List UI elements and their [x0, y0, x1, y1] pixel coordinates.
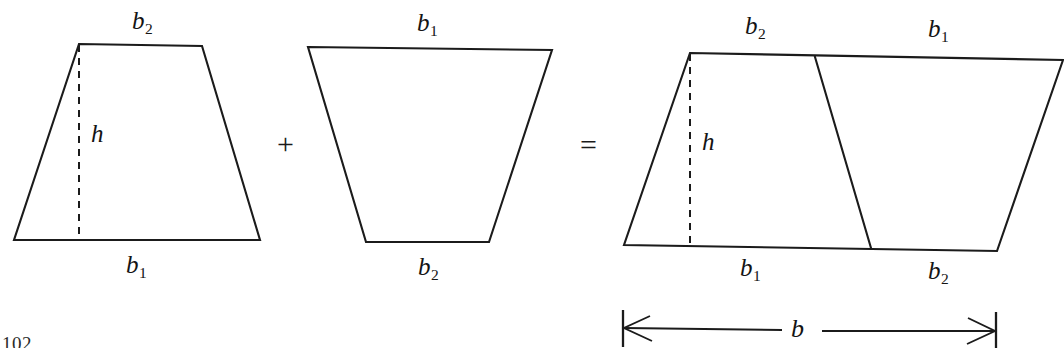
left-trapezoid-bottom-label: b1 [126, 252, 147, 280]
middle-trapezoid-top-label: b1 [417, 10, 438, 38]
parallelogram-top-right-label: b1 [928, 16, 949, 44]
parallelogram-top-left-label: b2 [745, 13, 766, 41]
parallelogram-bottom-left-label: b1 [740, 255, 761, 283]
middle-trapezoid-bottom-label: b2 [418, 254, 439, 282]
parallelogram-diagonal-divider [815, 57, 871, 248]
page-number: 102 [2, 334, 32, 348]
middle-trapezoid-outline [308, 47, 552, 242]
equals-operator: = [580, 130, 597, 160]
left-trapezoid-group [14, 44, 260, 240]
left-trapezoid-height-label: h [91, 121, 104, 146]
parallelogram-bottom-right-label: b2 [928, 258, 949, 286]
base-dimension-group [623, 310, 996, 348]
left-trapezoid-top-label: b2 [132, 8, 153, 36]
parallelogram-height-label: h [702, 129, 715, 154]
trapezoid-area-figure: b2 b1 h + b1 b2 = b2 b1 b1 b2 h b 102 [0, 0, 1064, 348]
figure-canvas [0, 0, 1064, 348]
right-parallelogram-group [624, 53, 1063, 251]
plus-operator: + [277, 129, 294, 159]
left-trapezoid-outline [14, 44, 260, 240]
parallelogram-base-label: b [791, 316, 804, 342]
dimension-left-segment [624, 328, 782, 330]
middle-trapezoid-group [308, 47, 552, 242]
